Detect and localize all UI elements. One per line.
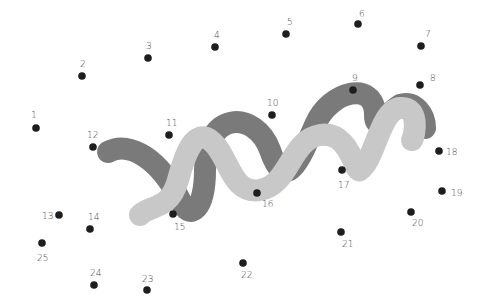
- dot-number-label: 2: [80, 59, 86, 69]
- dot-23: 23: [142, 274, 153, 294]
- dot-10: 10: [267, 98, 278, 119]
- dot-number-label: 10: [267, 98, 278, 108]
- dot-marker: [407, 208, 415, 216]
- dot-24: 24: [90, 268, 101, 289]
- dot-6: 6: [354, 9, 365, 28]
- dot-number-label: 15: [174, 222, 185, 232]
- dot-number-label: 12: [87, 130, 98, 140]
- dot-to-dot-puzzle: 1234567891011121314151617181920212223242…: [0, 0, 498, 303]
- dot-marker: [143, 286, 151, 294]
- dot-number-label: 3: [146, 41, 152, 51]
- dot-number-label: 21: [342, 239, 353, 249]
- dot-11: 11: [165, 118, 177, 139]
- dot-number-label: 19: [451, 188, 462, 198]
- dot-marker: [435, 147, 443, 155]
- dot-number-label: 25: [37, 253, 48, 263]
- dot-number-label: 11: [166, 118, 177, 128]
- dot-3: 3: [144, 41, 152, 62]
- dot-marker: [78, 72, 86, 80]
- dot-marker: [144, 54, 152, 62]
- dot-marker: [349, 86, 357, 94]
- dot-marker: [253, 189, 261, 197]
- wavy-bands: [108, 93, 425, 215]
- dot-marker: [169, 210, 177, 218]
- dot-marker: [55, 211, 63, 219]
- dot-2: 2: [78, 59, 86, 80]
- dot-8: 8: [416, 73, 436, 89]
- dot-marker: [268, 111, 276, 119]
- dot-number-label: 8: [430, 73, 436, 83]
- dot-12: 12: [87, 130, 98, 151]
- dot-number-label: 18: [446, 147, 457, 157]
- dot-number-label: 6: [359, 9, 365, 19]
- dot-marker: [337, 228, 345, 236]
- dot-number-label: 23: [142, 274, 153, 284]
- dot-13: 13: [42, 211, 63, 221]
- dot-marker: [416, 81, 424, 89]
- dot-marker: [338, 166, 346, 174]
- dot-number-label: 22: [241, 270, 252, 280]
- dot-marker: [89, 143, 97, 151]
- dot-number-label: 5: [287, 17, 293, 27]
- dot-marker: [86, 225, 94, 233]
- dot-7: 7: [417, 29, 431, 50]
- dot-marker: [417, 42, 425, 50]
- dot-marker: [90, 281, 98, 289]
- dot-21: 21: [337, 228, 353, 249]
- dot-number-label: 16: [262, 199, 273, 209]
- dot-number-label: 4: [214, 30, 220, 40]
- dot-marker: [165, 131, 173, 139]
- dot-number-label: 7: [425, 29, 431, 39]
- dot-14: 14: [86, 212, 99, 233]
- dot-18: 18: [435, 147, 457, 157]
- dot-number-label: 13: [42, 211, 53, 221]
- dot-25: 25: [37, 239, 48, 263]
- dot-5: 5: [282, 17, 293, 38]
- dot-1: 1: [31, 110, 40, 132]
- dot-marker: [282, 30, 290, 38]
- dot-marker: [438, 187, 446, 195]
- dot-number-label: 24: [90, 268, 101, 278]
- dot-number-label: 1: [31, 110, 37, 120]
- dot-number-label: 20: [412, 218, 423, 228]
- dot-20: 20: [407, 208, 423, 228]
- dot-19: 19: [438, 187, 462, 198]
- dot-marker: [354, 20, 362, 28]
- numbered-dots: 1234567891011121314151617181920212223242…: [31, 9, 462, 294]
- dot-marker: [32, 124, 40, 132]
- dot-number-label: 9: [352, 73, 358, 83]
- dot-marker: [38, 239, 46, 247]
- dot-marker: [239, 259, 247, 267]
- dot-22: 22: [239, 259, 252, 280]
- dot-marker: [211, 43, 219, 51]
- dot-number-label: 17: [338, 180, 349, 190]
- dot-number-label: 14: [88, 212, 99, 222]
- dot-4: 4: [211, 30, 220, 51]
